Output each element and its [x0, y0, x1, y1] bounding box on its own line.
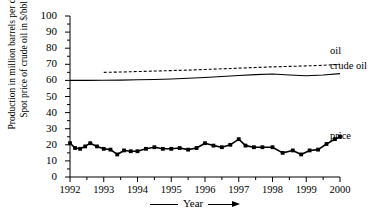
x-axis-rule-left	[150, 204, 178, 205]
series-marker-price	[78, 147, 82, 151]
series-marker-price	[291, 149, 295, 153]
series-marker-price	[252, 145, 256, 149]
series-marker-price	[271, 145, 275, 149]
series-marker-price	[109, 148, 113, 152]
series-marker-price	[129, 149, 133, 153]
y-axis-tick-label: 80	[31, 42, 57, 53]
series-marker-price	[144, 147, 148, 151]
series-line-crude-oil	[70, 74, 340, 81]
series-marker-price	[220, 145, 224, 149]
series-marker-price	[281, 151, 285, 155]
x-axis-arrow-right	[208, 201, 242, 208]
data-series	[68, 64, 342, 156]
y-axis-tick-label: 30	[31, 123, 57, 134]
series-marker-price	[88, 141, 92, 145]
series-marker-price	[237, 137, 241, 141]
series-marker-price	[178, 146, 182, 150]
series-marker-price	[102, 147, 106, 151]
series-marker-price	[228, 143, 232, 147]
x-axis-title-group: Year	[150, 197, 242, 209]
y-axis-tick-label: 20	[31, 139, 57, 150]
chart-container: Production in million barrels per day Sp…	[0, 0, 381, 218]
series-marker-price	[115, 153, 119, 157]
y-axis-tick-label: 100	[31, 10, 57, 21]
series-marker-price	[195, 146, 199, 150]
y-axis-tick-label: 0	[31, 171, 57, 182]
series-marker-price	[316, 148, 320, 152]
x-axis-tick-label: 2000	[320, 184, 360, 195]
series-marker-price	[308, 149, 312, 153]
y-axis-tick-label: 40	[31, 107, 57, 118]
series-marker-price	[299, 153, 303, 157]
series-marker-price	[186, 148, 190, 152]
series-marker-price	[83, 145, 87, 149]
y-axis-tick-label: 10	[31, 155, 57, 166]
series-label-crude-oil: crude oil	[330, 60, 367, 71]
y-axis-tick-label: 90	[31, 26, 57, 37]
x-axis-title-label: Year	[183, 197, 203, 209]
y-axis-tick-label: 50	[31, 91, 57, 102]
series-marker-price	[260, 145, 264, 149]
x-axis-ticks	[70, 177, 340, 182]
series-marker-price	[68, 141, 72, 145]
series-marker-price	[169, 147, 173, 151]
y-axis-tick-label: 60	[31, 74, 57, 85]
series-marker-price	[325, 142, 329, 146]
series-marker-price	[244, 144, 248, 148]
y-axis-ticks	[65, 16, 70, 177]
series-marker-price	[122, 149, 126, 153]
series-label-price: price	[330, 130, 351, 141]
series-label-oil: oil	[330, 45, 341, 56]
series-marker-price	[136, 149, 140, 153]
series-marker-price	[212, 144, 216, 148]
series-marker-price	[152, 145, 156, 149]
series-marker-price	[73, 146, 77, 150]
series-line-price	[70, 137, 340, 155]
series-line-oil	[104, 64, 340, 72]
series-marker-price	[95, 145, 99, 149]
series-marker-price	[203, 141, 207, 145]
series-marker-price	[161, 147, 165, 151]
y-axis-tick-label: 70	[31, 58, 57, 69]
